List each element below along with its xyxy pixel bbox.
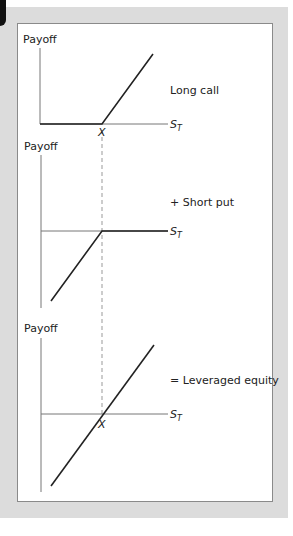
panel2-title: + Short put	[170, 196, 235, 209]
panel1-x-label: ST	[170, 118, 183, 133]
panel3-y-label: Payoff	[24, 322, 58, 335]
panel3-strike-label: X	[97, 418, 106, 431]
panel1-payoff-line	[40, 54, 153, 124]
panel1-strike-label: X	[97, 126, 106, 139]
panel2-y-label: Payoff	[24, 140, 58, 153]
panel2-x-label: ST	[170, 225, 183, 240]
leveraged-equity-chart: Payoff = Leveraged equity ST X	[24, 322, 279, 492]
panel3-payoff-line	[51, 345, 154, 486]
long-call-chart: Payoff Long call ST X	[23, 33, 219, 139]
panel1-y-label: Payoff	[23, 33, 57, 46]
panel3-title: = Leveraged equity	[170, 374, 279, 387]
short-put-chart: Payoff + Short put ST	[24, 140, 235, 308]
panel3-x-label: ST	[170, 408, 183, 423]
panel2-payoff-line	[51, 231, 168, 301]
payoff-diagram: Payoff Long call ST X Payoff + Short put…	[0, 0, 293, 536]
panel1-title: Long call	[170, 84, 219, 97]
